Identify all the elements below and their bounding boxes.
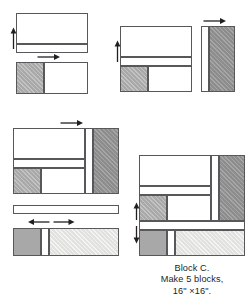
large-white-rectangle: [16, 13, 88, 44]
press-arrow-left-step6: [28, 218, 50, 226]
press-arrow-up-left-step8: [132, 202, 141, 220]
press-arrow-right-step6: [53, 218, 75, 226]
block-c-assembly-diagram: Block C. Make 5 blocks, 16" ×16".: [0, 0, 251, 305]
narrow-white-strip: [201, 26, 209, 92]
lower-right-white-rectangle: [167, 195, 211, 221]
step-8-finished-block-c: [139, 155, 245, 256]
press-arrow-up-left-step1: [9, 27, 18, 49]
bottom-right-light-gray-rectangle: [175, 230, 245, 256]
bottom-long-white-strip: [139, 221, 245, 230]
gray-hatched-square: [16, 62, 44, 94]
caption-line-3: 16" ×16".: [139, 286, 245, 297]
wide-gray-hatched-bar: [209, 26, 235, 92]
step-2-top-left-two-patch-unit: [16, 62, 88, 94]
right-narrow-white-strip: [211, 155, 219, 221]
step-3-top-right-joined-unit: [120, 26, 192, 92]
caption-line-2: Make 5 blocks,: [139, 274, 245, 285]
middle-thin-white-strip: [139, 186, 211, 195]
bottom-thin-white-strip: [16, 44, 88, 53]
narrow-white-strip: [41, 228, 49, 256]
middle-thin-white-strip: [13, 159, 85, 168]
press-arrow-right-step5: [60, 119, 84, 127]
step-4-top-right-side-bar-unit: [201, 26, 235, 92]
right-narrow-white-strip: [85, 128, 93, 194]
right-gray-hatched-bar: [93, 128, 119, 194]
middle-thin-white-strip: [120, 57, 192, 66]
press-arrow-up-left-step3: [113, 40, 122, 62]
press-arrow-right-step4: [203, 17, 227, 25]
long-thin-white-strip: [13, 205, 119, 214]
block-caption: Block C. Make 5 blocks, 16" ×16".: [139, 263, 245, 297]
bottom-left-gray-square: [139, 230, 167, 256]
bottom-narrow-white-strip: [167, 230, 175, 256]
right-light-gray-rectangle: [49, 228, 119, 256]
lower-left-gray-hatched-square: [13, 168, 41, 194]
lower-left-gray-hatched-square: [139, 195, 167, 221]
step-1-top-left-strip-unit: [16, 13, 88, 53]
press-arrow-right-step2: [37, 53, 61, 61]
lower-right-white-rectangle: [148, 66, 192, 92]
lower-left-gray-hatched-square: [120, 66, 148, 92]
step-7-bottom-left-three-patch-strip: [13, 228, 119, 256]
press-arrow-down-left-step8: [132, 226, 141, 244]
white-rectangle: [44, 62, 88, 94]
caption-line-1: Block C.: [139, 263, 245, 274]
right-gray-hatched-bar: [219, 155, 245, 221]
lower-right-white-rectangle: [41, 168, 85, 194]
step-6-bottom-left-long-white-strip: [13, 205, 119, 214]
left-gray-square: [13, 228, 41, 256]
upper-white-rectangle: [13, 128, 85, 159]
upper-white-rectangle: [139, 155, 211, 186]
step-5-middle-left-combined-unit: [13, 128, 119, 194]
upper-white-rectangle: [120, 26, 192, 57]
